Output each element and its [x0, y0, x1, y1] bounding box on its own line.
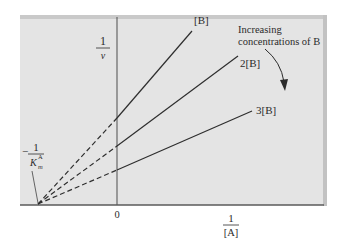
annotation-line1: Increasing [238, 24, 282, 35]
panel-right-edge [323, 15, 327, 206]
x-intercept-superscript: A [38, 153, 43, 160]
x-label-denominator: [A] [224, 227, 239, 238]
y-label-numerator: 1 [100, 34, 106, 48]
x-intercept-K: K [29, 157, 38, 168]
annotation-line2: concentrations of B [238, 36, 320, 47]
origin-label: 0 [114, 209, 119, 220]
x-intercept-numerator: 1 [33, 141, 39, 153]
panel-top-band [20, 15, 326, 19]
x-intercept-sign: − [22, 145, 28, 157]
label-3B: 3[B] [256, 104, 276, 116]
x-axis-label: 1 [A] [223, 212, 239, 238]
lineweaver-burk-diagram: 1 v [B] 2[B] 3[B] Increasing concentrati… [0, 0, 352, 249]
label-2B: 2[B] [240, 57, 260, 69]
x-intercept-subscript: m [38, 163, 43, 170]
x-label-numerator: 1 [228, 212, 234, 224]
label-B: [B] [194, 14, 209, 26]
y-label-denominator: v [101, 50, 106, 61]
